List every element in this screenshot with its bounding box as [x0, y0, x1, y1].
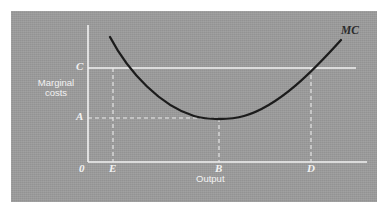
x-mark-B: B — [215, 163, 222, 175]
origin-label: 0 — [79, 163, 85, 175]
y-mark-A: A — [76, 111, 83, 123]
marginal-cost-chart — [11, 11, 377, 202]
curve-label-mc: MC — [341, 24, 359, 36]
figure-root: Marginalcosts Output 0 C A E B D MC — [0, 0, 389, 214]
x-axis-label: Output — [196, 174, 225, 184]
y-axis-label: Marginalcosts — [27, 78, 85, 99]
chart-plate: Marginalcosts Output 0 C A E B D MC — [11, 11, 377, 202]
x-mark-D: D — [307, 163, 315, 175]
x-mark-E: E — [109, 163, 116, 175]
marginal-cost-curve — [110, 37, 341, 119]
y-mark-C: C — [76, 61, 83, 73]
y-axis-label-line2: costs — [45, 87, 67, 98]
